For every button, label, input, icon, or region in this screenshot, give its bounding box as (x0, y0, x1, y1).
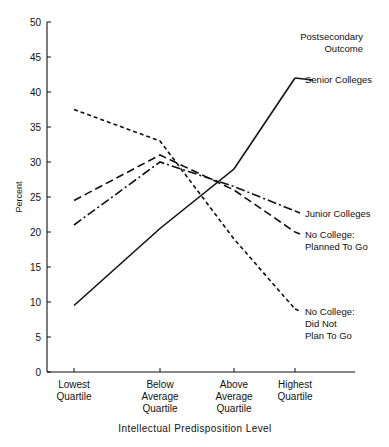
y-tick-label: 0 (35, 367, 41, 378)
y-tick-label: 30 (30, 157, 42, 168)
series-leader-2 (295, 232, 300, 234)
y-tick-label: 40 (30, 87, 42, 98)
legend-title: Postsecondary (300, 31, 363, 42)
y-axis: 05101520253035404550 (30, 17, 51, 378)
series-line-0 (74, 78, 295, 306)
chart-figure: 05101520253035404550 PostsecondaryOutcom… (0, 0, 389, 447)
y-tick-label: 5 (35, 332, 41, 343)
legend-label-1: Junior Colleges (305, 208, 371, 219)
x-axis-title: Intellectual Predisposition Level (118, 423, 271, 434)
x-tick-label: Quartile (216, 403, 251, 414)
y-tick-label: 45 (30, 52, 42, 63)
series-line-1 (74, 162, 295, 225)
x-tick-label: Below (146, 379, 174, 390)
y-tick-label: 20 (30, 227, 42, 238)
series-line-2 (74, 155, 295, 232)
x-tick-label: Above (220, 379, 249, 390)
legend-label-2: Planned To Go (305, 241, 368, 252)
legend-label-0: Senior Colleges (305, 74, 372, 85)
chart-legend: PostsecondaryOutcomeSenior CollegesJunio… (300, 31, 372, 341)
legend-label-2: No College: (305, 229, 355, 240)
x-tick-label: Quartile (277, 391, 312, 402)
x-tick-label: Highest (278, 379, 312, 390)
x-tick-label: Lowest (58, 379, 90, 390)
y-axis-title: Percent (14, 181, 24, 213)
legend-label-3: Did Not (305, 318, 337, 329)
series-leader-3 (295, 309, 300, 311)
x-tick-label: Quartile (142, 403, 177, 414)
legend-label-3: No College: (305, 306, 355, 317)
legend-label-3: Plan To Go (305, 330, 352, 341)
series-leader-1 (295, 211, 300, 213)
x-tick-labels: LowestQuartileBelowAverageQuartileAboveA… (56, 379, 312, 414)
x-tick-label: Average (215, 391, 253, 402)
x-tick-label: Quartile (56, 391, 91, 402)
y-tick-label: 10 (30, 297, 42, 308)
y-tick-label: 50 (30, 17, 42, 28)
x-axis (47, 368, 355, 372)
y-tick-label: 25 (30, 192, 42, 203)
y-tick-label: 35 (30, 122, 42, 133)
series-lines (74, 78, 313, 311)
x-tick-label: Average (141, 391, 179, 402)
legend-title: Outcome (324, 43, 363, 54)
y-tick-label: 15 (30, 262, 42, 273)
chart-canvas: 05101520253035404550 PostsecondaryOutcom… (0, 0, 389, 447)
